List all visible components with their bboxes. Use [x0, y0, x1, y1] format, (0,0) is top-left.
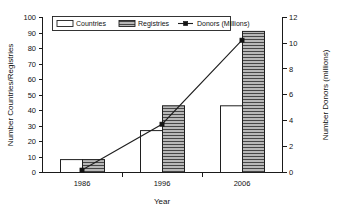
legend-swatch-countries — [57, 21, 73, 27]
chart-figure: 0 10 20 30 40 50 60 70 80 90 100 — [0, 0, 342, 211]
left-tick-label: 40 — [28, 106, 36, 115]
left-tick-label: 20 — [28, 137, 36, 146]
left-tick-label: 80 — [28, 44, 36, 53]
bar-countries-2006 — [221, 106, 243, 173]
bar-countries-1986 — [61, 160, 83, 173]
left-axis-title: Number Countries/Registries — [6, 44, 15, 147]
right-axis-title: Number Donors (millions) — [321, 49, 330, 140]
chart-legend: Countries Registries Donors (Millions) — [53, 17, 250, 31]
right-tick-label: 12 — [289, 13, 297, 22]
bar-registries-2006 — [243, 31, 265, 172]
right-tick-label: 10 — [289, 39, 297, 48]
bar-countries-1996 — [141, 131, 163, 173]
donors-marker-1996 — [160, 122, 164, 126]
legend-label-donors: Donors (Millions) — [197, 20, 250, 28]
donors-marker-1986 — [80, 168, 84, 172]
x-tick-label-2006: 2006 — [234, 179, 251, 188]
left-tick-label: 10 — [28, 153, 36, 162]
legend-label-countries: Countries — [76, 20, 106, 27]
left-tick-label: 30 — [28, 122, 36, 131]
legend-swatch-registries — [119, 21, 135, 27]
donors-marker-2006 — [240, 38, 244, 42]
right-tick-label: 2 — [289, 142, 293, 151]
right-tick-label: 4 — [289, 116, 293, 125]
bar-registries-1986 — [83, 160, 105, 173]
left-tick-label: 60 — [28, 75, 36, 84]
right-tick-label: 8 — [289, 65, 293, 74]
left-tick-label: 90 — [28, 29, 36, 38]
legend-marker-donors — [184, 21, 188, 25]
right-tick-label: 0 — [289, 168, 293, 177]
x-tick-label-1996: 1996 — [154, 179, 171, 188]
bar-registries-1996 — [163, 106, 185, 173]
left-tick-label: 100 — [23, 13, 36, 22]
x-tick-label-1986: 1986 — [74, 179, 91, 188]
left-tick-label: 50 — [28, 91, 36, 100]
combo-bar-line-chart: 0 10 20 30 40 50 60 70 80 90 100 — [0, 0, 342, 211]
x-axis-title: Year — [154, 197, 171, 206]
left-tick-label: 0 — [32, 168, 36, 177]
left-tick-label: 70 — [28, 60, 36, 69]
right-tick-label: 6 — [289, 90, 293, 99]
legend-label-registries: Registries — [138, 20, 170, 28]
